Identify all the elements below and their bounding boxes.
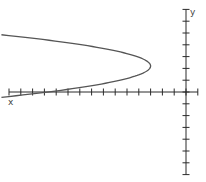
x-axis-label: x: [8, 97, 14, 107]
y-axis-label: y: [190, 7, 196, 17]
chart: x y: [0, 0, 206, 182]
parabola-curve: [1, 35, 150, 98]
